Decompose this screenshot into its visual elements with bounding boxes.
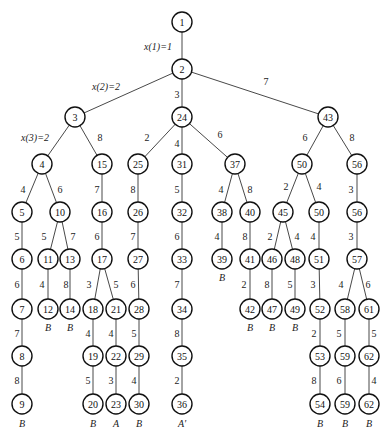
node-label: 57 [352, 254, 362, 265]
node-label: 23 [111, 399, 121, 410]
leaf-status-label: B [247, 322, 253, 333]
tree-node: 40 [240, 202, 260, 222]
node-label: 14 [65, 304, 75, 315]
edge-weight-label: 8 [131, 184, 136, 195]
node-label: 43 [323, 112, 333, 123]
node-label: 7 [20, 304, 25, 315]
edge-weight-label: 8 [248, 184, 253, 195]
node-label: 33 [177, 254, 187, 265]
edge-weight-label: 6 [58, 184, 63, 195]
tree-node: 2 [172, 59, 192, 79]
tree-node: 36 [172, 394, 192, 414]
tree-node: 6 [12, 249, 32, 269]
edge-weight-label: 3 [87, 279, 92, 290]
tree-node: 51 [309, 249, 329, 269]
node-label: 13 [65, 254, 75, 265]
node-label: 50 [314, 207, 324, 218]
tree-node: 13 [60, 249, 80, 269]
leaf-status-label: B [67, 322, 73, 333]
tree-node: 20 [83, 394, 103, 414]
node-label: 40 [245, 207, 255, 218]
node-label: 58 [340, 304, 350, 315]
node-label: 34 [177, 304, 187, 315]
tree-node: 14 [60, 299, 80, 319]
edge-weight-label: 6 [15, 279, 20, 290]
tree-node: 23 [106, 394, 126, 414]
node-label: 59 [340, 399, 350, 410]
edge-weight-label: 5 [15, 231, 20, 242]
tree-node: 18 [83, 299, 103, 319]
node-label: 24 [177, 112, 187, 123]
edge-weight-label: 3 [109, 375, 114, 386]
tree-node: 33 [172, 249, 192, 269]
leaf-status-label: B [366, 418, 372, 429]
edge-weight-label: 5 [132, 328, 137, 339]
node-label: 27 [133, 254, 143, 265]
node-label: 11 [43, 254, 53, 265]
node-label: 37 [230, 159, 240, 170]
edge-weight-label: 2 [284, 181, 289, 192]
tree-edge [182, 69, 328, 117]
edge-weight-label: 8 [175, 328, 180, 339]
search-tree-diagram: x(1)=1x(2)=237x(3)=282466846785482435576… [0, 0, 389, 437]
leaf-status-label: A [112, 418, 120, 429]
edge-weight-label: 4 [311, 231, 316, 242]
edge-weight-label: 8 [312, 375, 317, 386]
node-label: 56 [352, 207, 362, 218]
tree-node: 47 [262, 299, 282, 319]
tree-node: 43 [318, 107, 338, 127]
node-label: 28 [134, 304, 144, 315]
node-label: 9 [20, 399, 25, 410]
tree-node: 35 [172, 346, 192, 366]
edge-weight-label: 5 [337, 328, 342, 339]
tree-node: 22 [106, 346, 126, 366]
edge-weight-label: 7 [95, 184, 100, 195]
node-label: 49 [290, 304, 300, 315]
tree-node: 17 [92, 249, 112, 269]
node-label: 39 [217, 254, 227, 265]
tree-node: 57 [347, 249, 367, 269]
node-label: 26 [133, 207, 143, 218]
node-label: 22 [111, 351, 121, 362]
edge-weight-label: 4 [295, 231, 300, 242]
node-label: 20 [88, 399, 98, 410]
edge-weight-label: 5 [288, 279, 293, 290]
edge-weight-label: 2 [242, 279, 247, 290]
tree-node: 5 [12, 202, 32, 222]
tree-node: 29 [129, 346, 149, 366]
node-label: 2 [180, 64, 185, 75]
tree-node: 19 [83, 346, 103, 366]
node-label: 59 [340, 351, 350, 362]
leaf-status-label: B [45, 322, 51, 333]
node-label: 41 [245, 254, 255, 265]
edge-weight-label: 6 [366, 279, 371, 290]
edge-weight-label: 7 [71, 231, 76, 242]
edge-weight-label: 3 [349, 231, 354, 242]
tree-node: 21 [106, 299, 126, 319]
node-label: 38 [217, 207, 227, 218]
tree-node: 59 [335, 346, 355, 366]
edge-weight-label: 4 [86, 328, 91, 339]
node-label: 21 [111, 304, 121, 315]
tree-node: 54 [310, 394, 330, 414]
tree-node: 56 [347, 202, 367, 222]
node-label: 6 [20, 254, 25, 265]
edge-weight-label: 4 [317, 181, 322, 192]
node-label: 42 [245, 304, 255, 315]
edge-weight-label: 5 [372, 328, 377, 339]
node-label: 50 [297, 159, 307, 170]
tree-node: 28 [129, 299, 149, 319]
node-label: 18 [88, 304, 98, 315]
tree-node: 59 [335, 394, 355, 414]
tree-edge [75, 69, 182, 117]
tree-node: 48 [285, 249, 305, 269]
tree-node: 52 [310, 299, 330, 319]
node-label: 35 [177, 351, 187, 362]
node-label: 30 [134, 399, 144, 410]
tree-node: 39 [212, 249, 232, 269]
edge-weight-label: 3 [349, 184, 354, 195]
tree-node: 62 [359, 394, 379, 414]
edge-weight-label: 3 [175, 89, 180, 100]
leaf-status-label: B [90, 418, 96, 429]
tree-node: 46 [262, 249, 282, 269]
